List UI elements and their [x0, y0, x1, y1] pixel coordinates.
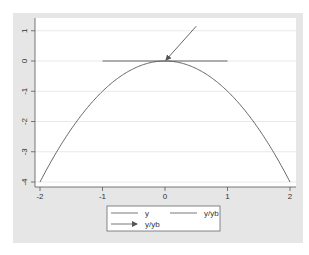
y-tick-label: -1	[20, 87, 29, 95]
legend-label-arrow: y/yb	[145, 220, 160, 229]
legend: y y/yb y/yb	[107, 206, 220, 231]
x-tick-label: -2	[36, 192, 44, 201]
x-tick-label: 1	[225, 192, 230, 201]
x-tick-label: 0	[163, 192, 168, 201]
y-tick-label: 0	[20, 58, 29, 63]
plot-area	[35, 18, 296, 187]
legend-label-tangent: y/yb	[204, 209, 219, 218]
chart: 10-1-2-3-4 -2-1012 y y/yb y/yb	[0, 0, 309, 255]
y-tick-label: 1	[20, 28, 29, 33]
x-tick-label: 2	[288, 192, 293, 201]
y-tick-label: -3	[20, 148, 29, 156]
y-tick-label: -4	[20, 178, 29, 186]
legend-label-y: y	[145, 209, 149, 218]
x-tick-label: -1	[99, 192, 107, 201]
y-tick-label: -2	[20, 117, 29, 125]
